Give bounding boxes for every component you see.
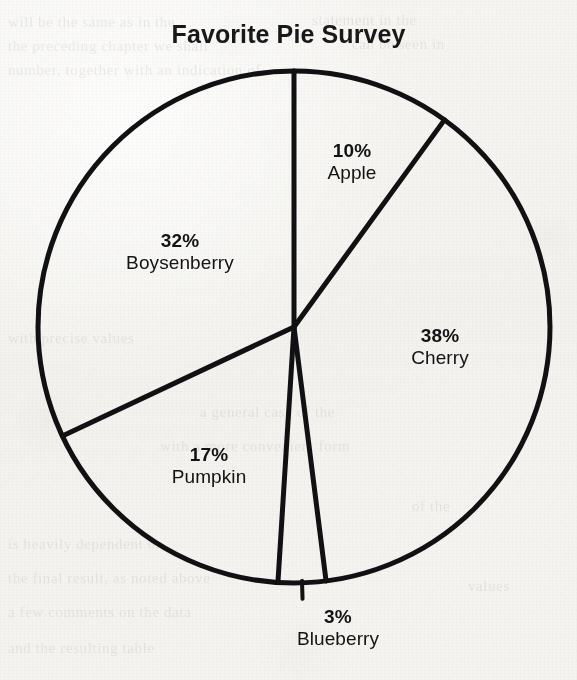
slice-percent: 17% bbox=[172, 444, 247, 466]
chart-title: Favorite Pie Survey bbox=[0, 20, 577, 49]
slice-name: Apple bbox=[327, 162, 376, 184]
slice-label-cherry: 38%Cherry bbox=[411, 325, 469, 370]
slice-percent: 38% bbox=[411, 325, 469, 347]
pie-divider-blueberry bbox=[294, 327, 326, 581]
slice-percent: 3% bbox=[297, 606, 379, 628]
slice-label-boysenberry: 32%Boysenberry bbox=[126, 230, 234, 275]
slice-name: Boysenberry bbox=[126, 252, 234, 274]
pie-slice-dividers bbox=[62, 71, 444, 582]
blueberry-leader-line bbox=[302, 581, 303, 599]
slice-percent: 10% bbox=[327, 140, 376, 162]
slice-label-apple: 10%Apple bbox=[327, 140, 376, 185]
pie-divider-boysenberry bbox=[62, 327, 294, 436]
pie-chart bbox=[0, 0, 577, 680]
slice-name: Pumpkin bbox=[172, 466, 247, 488]
slice-name: Blueberry bbox=[297, 628, 379, 650]
slice-percent: 32% bbox=[126, 230, 234, 252]
slice-label-pumpkin: 17%Pumpkin bbox=[172, 444, 247, 489]
slice-name: Cherry bbox=[411, 347, 469, 369]
pie-divider-pumpkin bbox=[278, 327, 294, 582]
slice-label-blueberry: 3%Blueberry bbox=[297, 606, 379, 651]
